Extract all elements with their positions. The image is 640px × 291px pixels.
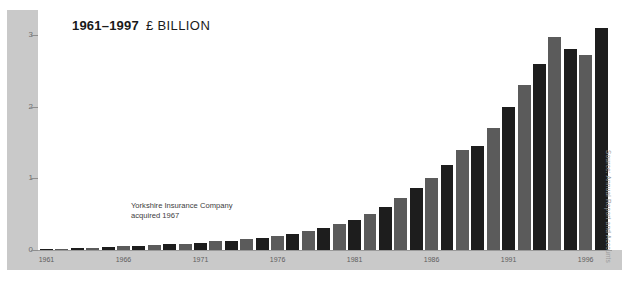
bar [394, 198, 407, 250]
bar [487, 128, 500, 250]
x-tick-label: 1981 [340, 256, 370, 264]
y-tick-label: 2 [7, 103, 33, 111]
bar [209, 241, 222, 250]
plot-area [40, 10, 610, 250]
bar [410, 188, 423, 250]
bar [333, 224, 346, 250]
bar [271, 236, 284, 250]
bar [502, 107, 515, 250]
x-tick-label: 1976 [263, 256, 293, 264]
bar [425, 178, 438, 250]
y-tick-mark [31, 35, 38, 36]
bar [379, 207, 392, 250]
bar [163, 244, 176, 250]
bar [579, 55, 592, 250]
bar [40, 249, 53, 251]
bar [179, 244, 192, 250]
y-tick-mark [31, 250, 38, 251]
y-tick-label: 1 [7, 174, 33, 182]
bar [117, 246, 130, 250]
bar [55, 249, 68, 251]
annotation-line-2: acquired 1967 [131, 211, 232, 221]
y-axis-panel [7, 10, 38, 270]
bar [71, 248, 84, 250]
bar [548, 37, 561, 250]
bar [225, 241, 238, 250]
x-tick-label: 1971 [186, 256, 216, 264]
bar [348, 220, 361, 250]
bar [102, 247, 115, 250]
bar [518, 85, 531, 250]
x-tick-label: 1986 [417, 256, 447, 264]
bar [286, 234, 299, 250]
bar [148, 245, 161, 250]
x-axis-panel [7, 250, 622, 270]
axis-baseline [38, 250, 612, 251]
bar [302, 231, 315, 250]
bar [471, 146, 484, 250]
annotation-yorkshire: Yorkshire Insurance Company acquired 196… [131, 201, 232, 221]
x-tick-label: 1966 [108, 256, 138, 264]
bar [456, 150, 469, 250]
bar [533, 64, 546, 250]
bar [441, 165, 454, 250]
y-tick-mark [31, 178, 38, 179]
bar [132, 246, 145, 250]
bar [256, 238, 269, 250]
bar [86, 248, 99, 250]
x-tick-label: 1961 [31, 256, 61, 264]
annotation-line-1: Yorkshire Insurance Company [131, 201, 232, 211]
bar [240, 239, 253, 250]
x-tick-label: 1991 [494, 256, 524, 264]
bar [364, 214, 377, 250]
y-tick-label: 0 [7, 246, 33, 254]
y-tick-label: 3 [7, 31, 33, 39]
bar [194, 243, 207, 250]
source-note: Source: Annual Report and Accounts [605, 150, 612, 263]
y-tick-mark [31, 107, 38, 108]
bar [564, 49, 577, 250]
chart-page: 1961–1997£ BILLION 0123 1961196619711976… [0, 0, 640, 291]
x-tick-label: 1996 [571, 256, 601, 264]
bar [317, 228, 330, 250]
